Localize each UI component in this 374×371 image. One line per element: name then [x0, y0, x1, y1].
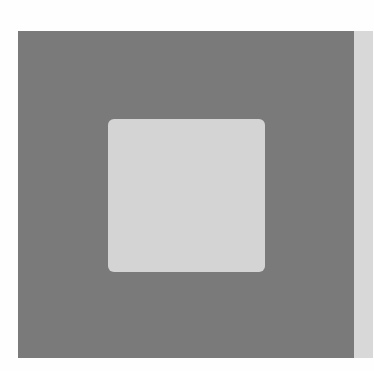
inner-light-square [108, 119, 265, 272]
side-light-strip [354, 31, 373, 358]
